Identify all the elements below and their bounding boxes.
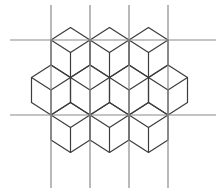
cube-top-face-edge (90, 40, 129, 53)
cube-top-face-edge (51, 115, 90, 128)
cube-top-face-edge (51, 40, 90, 53)
cube-tiling-diagram (0, 0, 224, 196)
cube-top-face-edge (129, 115, 168, 128)
cube-top-face-edge (90, 115, 129, 128)
cube-row1-3 (129, 28, 168, 78)
cube-row3-8 (51, 103, 90, 153)
cube-row1-1 (51, 28, 90, 78)
diagram-canvas (0, 0, 224, 196)
cube-top-face-edge (129, 40, 168, 53)
grid-lines-layer (10, 5, 216, 188)
cube-row1-2 (90, 28, 129, 78)
cube-row3-10 (129, 103, 168, 153)
cube-row3-9 (90, 103, 129, 153)
cubes-layer (32, 28, 188, 153)
